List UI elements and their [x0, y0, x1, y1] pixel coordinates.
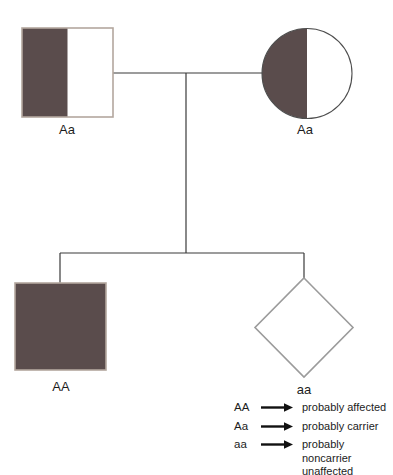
child2-genotype-label: aa: [297, 382, 312, 397]
legend-text-noncarrier-line2: unaffected: [302, 465, 353, 475]
pedigree-diagram: Aa Aa AA aa AA probably aff: [0, 0, 393, 475]
legend-text-noncarrier-line1: probably noncarrier: [302, 438, 352, 464]
mother-genotype-label: Aa: [297, 122, 314, 137]
child1-square-fill: [15, 283, 106, 370]
legend-row-noncarrier: aa probably noncarrier unaffected: [234, 438, 393, 475]
arrow-right-icon: [260, 402, 294, 413]
legend-symbol-AA: AA: [234, 401, 260, 414]
legend-symbol-Aa: Aa: [234, 420, 260, 433]
father-square-shaded-half: [22, 28, 68, 117]
mother-circle-shaded-half: [262, 29, 307, 119]
legend-row-carrier: Aa probably carrier: [234, 420, 393, 434]
legend-text-noncarrier: probably noncarrier unaffected: [302, 438, 393, 475]
father-genotype-label: Aa: [59, 122, 76, 137]
individual-mother: Aa: [262, 29, 352, 138]
child2-diamond-shape: [255, 278, 353, 377]
legend-text-carrier: probably carrier: [302, 420, 378, 434]
arrow-right-icon: [260, 439, 294, 450]
arrow-right-icon: [260, 421, 294, 432]
individual-child-1: AA: [15, 283, 106, 394]
individual-father: Aa: [22, 28, 113, 137]
legend-text-affected: probably affected: [302, 401, 386, 415]
legend-symbol-aa: aa: [234, 438, 260, 451]
legend: AA probably affected Aa probably carrier…: [234, 401, 393, 475]
legend-row-affected: AA probably affected: [234, 401, 393, 415]
individual-child-2: aa: [255, 278, 353, 397]
child1-genotype-label: AA: [52, 379, 70, 394]
